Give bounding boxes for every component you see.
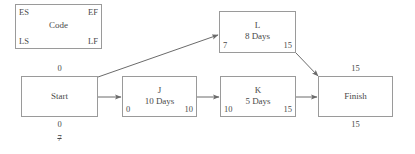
node-j[interactable]: J 10 Days 0 10 xyxy=(122,76,197,117)
legend-ls-label: LS xyxy=(19,36,29,46)
node-start[interactable]: Start xyxy=(21,76,98,117)
node-k-early-finish: 15 xyxy=(284,104,293,114)
network-diagram-canvas: ES EF Code LS LF Start 0 0 7 J 10 Days 0… xyxy=(0,0,415,154)
node-l-early-finish: 15 xyxy=(284,40,293,50)
node-start-title: Start xyxy=(22,91,97,102)
node-finish[interactable]: Finish xyxy=(318,76,393,117)
legend-ef-label: EF xyxy=(88,7,98,17)
node-finish-title: Finish xyxy=(319,91,392,102)
node-j-early-finish: 10 xyxy=(185,104,194,114)
node-start-top-value: 0 xyxy=(21,63,98,73)
node-start-bottom-value-struck: 7 xyxy=(21,133,98,143)
node-l[interactable]: L 8 Days 7 15 xyxy=(219,11,296,53)
node-k-title: K xyxy=(221,85,295,96)
legend-es-label: ES xyxy=(19,7,29,17)
edge-start-to-l xyxy=(98,35,218,77)
node-finish-top-value: 15 xyxy=(318,63,393,73)
node-l-title: L xyxy=(220,20,295,31)
node-finish-bottom-value: 15 xyxy=(318,119,393,129)
node-k-early-start: 10 xyxy=(224,104,233,114)
node-start-bottom-value: 0 xyxy=(21,119,98,129)
legend-code-label: Code xyxy=(16,20,101,31)
node-k[interactable]: K 5 Days 10 15 xyxy=(220,76,296,117)
legend-key-box: ES EF Code LS LF xyxy=(15,4,102,49)
node-j-early-start: 0 xyxy=(126,104,130,114)
legend-lf-label: LF xyxy=(88,36,98,46)
node-j-title: J xyxy=(123,85,196,96)
edge-l-to-finish xyxy=(296,53,318,76)
node-l-early-start: 7 xyxy=(223,40,227,50)
